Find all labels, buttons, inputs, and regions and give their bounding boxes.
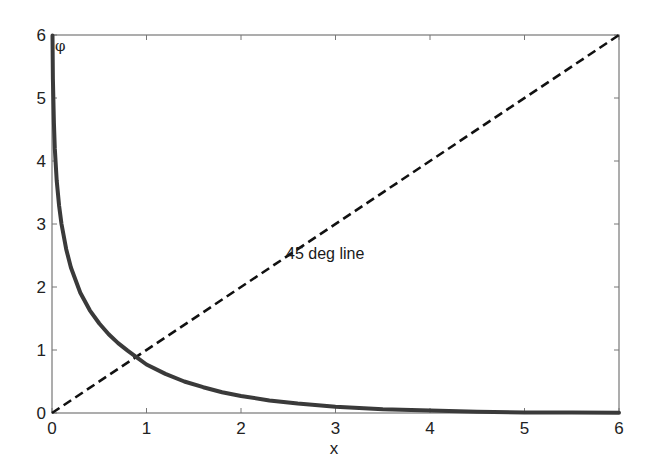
x-tick-label: 4	[425, 419, 434, 438]
45-deg-line-annotation: 45 deg line	[286, 245, 364, 262]
x-tick-label: 6	[614, 419, 623, 438]
x-axis-label: x	[330, 439, 339, 458]
phi-function-chart: 0123456 0123456 45 deg line φ x	[0, 0, 662, 469]
x-axis-ticks: 0123456	[47, 35, 623, 438]
y-tick-label: 2	[37, 278, 46, 297]
x-tick-label: 3	[331, 419, 340, 438]
x-tick-label: 2	[236, 419, 245, 438]
x-tick-label: 0	[47, 419, 56, 438]
y-tick-label: 1	[37, 341, 46, 360]
x-tick-label: 5	[520, 419, 529, 438]
y-tick-label: 5	[37, 89, 46, 108]
x-tick-label: 1	[142, 419, 151, 438]
y-tick-label: 0	[37, 404, 46, 423]
y-axis-ticks: 0123456	[37, 26, 619, 423]
y-axis-label: φ	[55, 37, 66, 55]
y-tick-label: 3	[37, 215, 46, 234]
y-tick-label: 6	[37, 26, 46, 45]
y-tick-label: 4	[37, 152, 46, 171]
